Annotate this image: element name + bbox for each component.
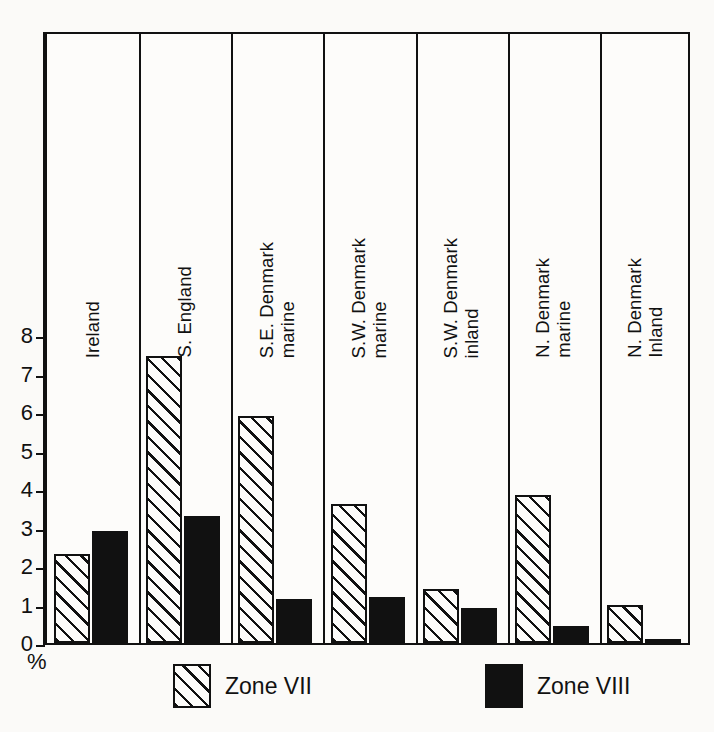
y-axis-tick: 8 <box>0 337 45 338</box>
y-axis-tick-label: 5 <box>21 439 33 465</box>
y-axis-tick: 2 <box>0 568 45 569</box>
y-axis-tick: 7 <box>0 376 45 377</box>
y-axis-tick-mark <box>36 491 45 493</box>
y-axis: 012345678 % <box>0 0 45 732</box>
bar-zone-viii-6 <box>553 626 589 643</box>
panel-label-text: S.E. Denmark marine <box>257 242 298 358</box>
y-axis-tick-mark <box>36 568 45 570</box>
bar-zone-viii-4 <box>369 597 405 643</box>
y-axis-tick-label: 4 <box>21 477 33 503</box>
bar-zone-vii-3 <box>238 416 274 643</box>
panel-label-3: S.E. Denmark marine <box>231 48 323 358</box>
panel-label-2: S. England <box>139 48 231 358</box>
panel-label-text: S.W. Denmark marine <box>349 238 390 358</box>
chart-legend: Zone VIIZone VIII <box>45 664 690 720</box>
legend-label: Zone VIII <box>537 673 630 699</box>
y-axis-tick: 3 <box>0 530 45 531</box>
panel-label-text: N. Denmark Inland <box>625 258 666 358</box>
bar-chart-figure: 012345678 % IrelandS. EnglandS.E. Denmar… <box>0 0 714 732</box>
bar-zone-vii-1 <box>54 554 90 643</box>
panel-label-1: Ireland <box>47 48 139 358</box>
y-axis-tick: 4 <box>0 491 45 492</box>
panel-label-text: S. England <box>175 266 196 358</box>
bar-zone-viii-1 <box>92 531 128 643</box>
bar-zone-viii-3 <box>276 599 312 643</box>
legend-label: Zone VII <box>225 673 312 699</box>
bar-zone-vii-2 <box>146 356 182 643</box>
y-axis-tick-mark <box>36 376 45 378</box>
panel-label-4: S.W. Denmark marine <box>323 48 415 358</box>
bar-zone-vii-5 <box>423 589 459 643</box>
panel-label-text: N. Denmark marine <box>533 258 574 358</box>
y-axis-tick-label: 6 <box>21 400 33 426</box>
bar-zone-vii-7 <box>607 605 643 644</box>
bar-zone-viii-7 <box>645 639 681 643</box>
panel-label-6: N. Denmark marine <box>508 48 600 358</box>
bar-zone-viii-2 <box>184 516 220 643</box>
panel-label-7: N. Denmark Inland <box>600 48 692 358</box>
y-axis-tick-label: 7 <box>21 362 33 388</box>
panel-label-5: S.W. Denmark inland <box>416 48 508 358</box>
y-axis-tick: 6 <box>0 414 45 415</box>
y-axis-tick-mark <box>36 453 45 455</box>
bar-zone-viii-5 <box>461 608 497 643</box>
y-axis-tick-mark <box>36 530 45 532</box>
y-axis-tick-mark <box>36 337 45 339</box>
y-axis-tick: 0 <box>0 645 45 646</box>
solid-black-swatch <box>485 664 523 708</box>
plot-area: IrelandS. EnglandS.E. Denmark marineS.W.… <box>45 32 690 645</box>
bar-zone-vii-6 <box>515 495 551 643</box>
y-axis-tick-mark <box>36 645 45 647</box>
y-axis-tick-mark <box>36 607 45 609</box>
y-axis-tick-label: 8 <box>21 323 33 349</box>
y-axis-tick-mark <box>36 414 45 416</box>
y-axis-tick-label: 1 <box>21 593 33 619</box>
panel-label-text: S.W. Denmark inland <box>441 238 482 358</box>
y-axis-tick-label: 3 <box>21 516 33 542</box>
hatched-swatch <box>173 664 211 708</box>
bar-zone-vii-4 <box>331 504 367 643</box>
panel-label-text: Ireland <box>83 301 104 358</box>
legend-entry-2[interactable]: Zone VIII <box>485 664 630 708</box>
y-axis-tick: 5 <box>0 453 45 454</box>
legend-entry-1[interactable]: Zone VII <box>173 664 312 708</box>
y-axis-unit-label: % <box>27 650 47 674</box>
y-axis-tick-label: 2 <box>21 554 33 580</box>
y-axis-tick: 1 <box>0 607 45 608</box>
